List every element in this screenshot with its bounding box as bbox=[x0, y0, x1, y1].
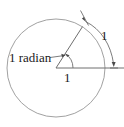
angle-label-one-radian: 1 radian bbox=[9, 51, 51, 64]
angle-arc bbox=[65, 54, 73, 68]
arc-length-measure-curve bbox=[86, 22, 114, 64]
arc-length-end-arrowhead bbox=[112, 62, 116, 67]
arc-length-start-tick bbox=[81, 11, 89, 26]
rotated-radius-line bbox=[56, 27, 83, 68]
radius-length-label: 1 bbox=[64, 71, 71, 84]
radian-diagram-figure: 1 radian 1 1 bbox=[0, 0, 124, 127]
arc-length-label: 1 bbox=[101, 29, 108, 42]
